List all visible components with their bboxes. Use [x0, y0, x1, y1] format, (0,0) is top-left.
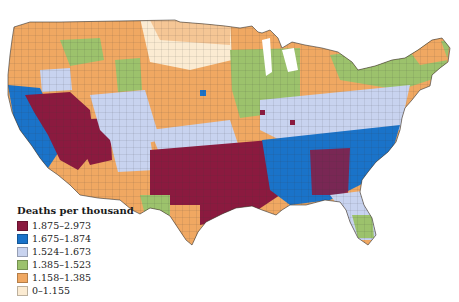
legend-title: Deaths per thousand	[17, 205, 134, 216]
legend-swatch	[17, 234, 28, 244]
legend-label: 0–1.155	[32, 285, 70, 296]
legend-item: 1.524–1.673	[17, 245, 134, 258]
legend-label: 1.524–1.673	[32, 246, 91, 257]
legend-item: 1.675–1.874	[17, 232, 134, 245]
legend-item: 1.158–1.385	[17, 271, 134, 284]
map-legend: Deaths per thousand 1.875–2.973 1.675–1.…	[17, 205, 134, 297]
legend-swatch	[17, 260, 28, 270]
legend-label: 1.158–1.385	[32, 272, 91, 283]
legend-label: 1.385–1.523	[32, 259, 91, 270]
legend-item: 1.875–2.973	[17, 219, 134, 232]
legend-swatch	[17, 221, 28, 231]
legend-item: 1.385–1.523	[17, 258, 134, 271]
legend-swatch	[17, 286, 28, 296]
legend-label: 1.875–2.973	[32, 220, 91, 231]
legend-swatch	[17, 273, 28, 283]
legend-swatch	[17, 247, 28, 257]
legend-label: 1.675–1.874	[32, 233, 91, 244]
legend-item: 0–1.155	[17, 284, 134, 297]
